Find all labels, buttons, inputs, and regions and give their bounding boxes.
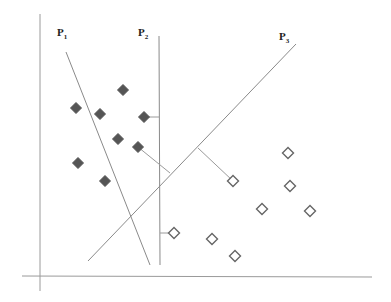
filled-diamond-icon (133, 142, 144, 153)
hyperplane-p3 (88, 44, 296, 261)
hyperplane-diagram: P1P2P3 (0, 0, 391, 302)
hollow-diamond-icon (305, 206, 316, 217)
label-p1: P1 (57, 26, 67, 41)
hollow-diamond-icon (283, 148, 294, 159)
filled-diamond-icon (73, 158, 84, 169)
hyperplanes (66, 36, 296, 265)
hollow-diamond-points (169, 148, 316, 262)
filled-diamond-icon (139, 112, 150, 123)
hyperplane-p2 (159, 36, 160, 265)
filled-diamond-icon (100, 176, 111, 187)
filled-diamond-points (71, 85, 150, 187)
hollow-diamond-icon (169, 228, 180, 239)
filled-diamond-icon (113, 134, 124, 145)
x-axis (22, 276, 372, 277)
label-p2: P2 (138, 26, 148, 41)
diagram-canvas (0, 0, 391, 302)
hollow-diamond-icon (285, 181, 296, 192)
hollow-diamond-icon (207, 234, 218, 245)
hollow-diamond-icon (257, 204, 268, 215)
filled-diamond-icon (71, 103, 82, 114)
label-p3: P3 (279, 30, 289, 45)
filled-diamond-icon (95, 109, 106, 120)
connector-line (138, 147, 170, 173)
filled-diamond-icon (118, 85, 129, 96)
margin-connectors (138, 117, 233, 233)
connector-line (198, 148, 233, 181)
hollow-diamond-icon (230, 251, 241, 262)
axes (22, 14, 372, 291)
